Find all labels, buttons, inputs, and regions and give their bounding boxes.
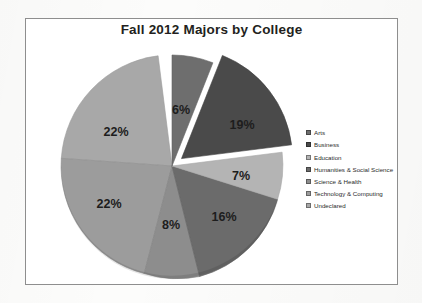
slice-label-arts: 6% <box>172 103 190 117</box>
legend-swatch-business <box>306 142 311 147</box>
legend-swatch-undeclared <box>306 203 311 208</box>
legend-swatch-education <box>306 155 311 160</box>
slice-label-science-health: 8% <box>162 218 180 232</box>
legend-item-science-health[interactable]: Science & Health <box>306 176 398 188</box>
slice-label-undeclared: 22% <box>103 125 128 139</box>
legend-item-undeclared[interactable]: Undeclared <box>306 200 398 212</box>
chart-page: Fall 2012 Majors by College <box>0 0 422 303</box>
legend-item-education[interactable]: Education <box>306 151 398 163</box>
legend-item-technology-computing[interactable]: Technology & Computing <box>306 188 398 200</box>
slice-label-humanities: 16% <box>211 210 236 224</box>
legend-swatch-humanities-social-science <box>306 167 311 172</box>
slice-label-technology: 22% <box>96 197 121 211</box>
legend-label-business: Business <box>314 141 339 148</box>
legend-label-technology-computing: Technology & Computing <box>314 190 383 197</box>
legend-swatch-arts <box>306 130 311 135</box>
legend-label-science-health: Science & Health <box>314 178 361 185</box>
legend-item-humanities-social-science[interactable]: Humanities & Social Science <box>306 164 398 176</box>
slice-label-business: 19% <box>229 118 254 132</box>
legend-label-education: Education <box>314 154 342 161</box>
legend-swatch-technology-computing <box>306 191 311 196</box>
slice-label-education: 7% <box>232 169 250 183</box>
pie-slice-undeclared[interactable] <box>61 56 172 166</box>
legend-label-undeclared: Undeclared <box>314 202 346 209</box>
legend-item-business[interactable]: Business <box>306 139 398 151</box>
legend-swatch-science-health <box>306 179 311 184</box>
legend-item-arts[interactable]: Arts <box>306 127 398 139</box>
legend-label-arts: Arts <box>314 129 325 136</box>
legend-label-humanities-social-science: Humanities & Social Science <box>314 166 393 173</box>
chart-legend: Arts Business Education Humanities & Soc… <box>306 127 398 212</box>
